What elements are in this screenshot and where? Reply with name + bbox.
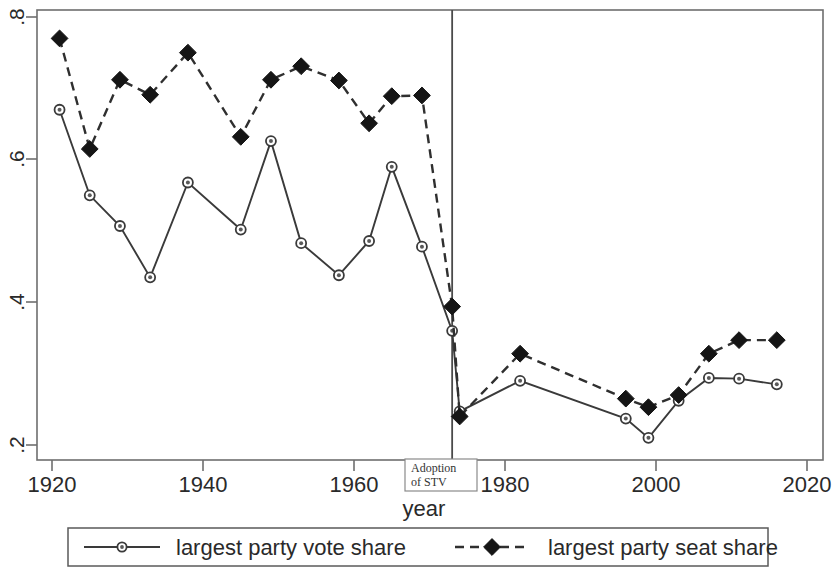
data-point-marker-dot: [186, 180, 190, 184]
x-tick-label-2000: 2000: [632, 472, 681, 497]
data-point-marker: [232, 128, 249, 145]
data-point-marker-dot: [58, 108, 62, 112]
y-tick-label-0: .8: [5, 8, 28, 26]
x-tick-label-1960: 1960: [330, 472, 379, 497]
data-point-marker: [414, 87, 431, 104]
data-point-marker: [112, 71, 129, 88]
legend-label-seat-share: largest party seat share: [548, 535, 778, 560]
y-tick-label-3: .2: [5, 436, 28, 454]
data-point-marker-dot: [707, 376, 711, 380]
data-point-marker-dot: [337, 273, 341, 277]
data-point-marker-dot: [88, 193, 92, 197]
data-point-marker-dot: [646, 436, 650, 440]
chart-legend: largest party vote share largest party s…: [68, 528, 778, 566]
data-point-marker-dot: [737, 377, 741, 381]
series-line: [60, 110, 777, 438]
data-point-marker: [617, 390, 634, 407]
data-point-marker: [700, 345, 717, 362]
data-point-marker: [383, 88, 400, 105]
x-tick-label-1980: 1980: [481, 472, 530, 497]
data-point-marker-dot: [239, 228, 243, 232]
annotation-line-2: of STV: [411, 475, 447, 489]
x-tick-label-2020: 2020: [783, 472, 832, 497]
data-point-marker: [768, 332, 785, 349]
data-point-marker: [293, 58, 310, 75]
y-tick-label-1: .6: [5, 150, 28, 168]
data-point-marker-dot: [269, 139, 273, 143]
plot-frame: [37, 10, 823, 460]
annotation-line-1: Adoption: [411, 461, 456, 475]
data-point-marker-dot: [518, 379, 522, 383]
x-tick-label-1940: 1940: [179, 472, 228, 497]
data-point-marker: [51, 30, 68, 47]
series-seat-share: [51, 30, 785, 425]
data-point-marker-dot: [148, 275, 152, 279]
data-point-marker: [731, 332, 748, 349]
data-point-marker: [640, 399, 657, 416]
y-tick-label-2: .4: [5, 293, 28, 311]
x-axis-title: year: [403, 496, 446, 521]
y-axis-ticks: [26, 17, 37, 445]
legend-marker-circle-dot: [120, 545, 124, 549]
data-point-marker-dot: [299, 241, 303, 245]
data-point-marker-dot: [775, 382, 779, 386]
plot-series-layer: [51, 10, 785, 460]
annotation-adoption-of-stv: Adoption of STV: [405, 459, 477, 491]
data-point-marker-dot: [390, 165, 394, 169]
data-point-marker-dot: [118, 224, 122, 228]
y-axis-tick-labels: .8 .6 .4 .2: [5, 8, 28, 454]
data-point-marker: [263, 71, 280, 88]
chart-figure: .8 .6 .4 .2 1920 1940 1960 1980 2000 202…: [0, 0, 832, 571]
data-point-marker-dot: [367, 239, 371, 243]
x-tick-label-1920: 1920: [28, 472, 77, 497]
data-point-marker-dot: [420, 245, 424, 249]
data-point-marker-dot: [624, 417, 628, 421]
data-point-marker: [331, 72, 348, 89]
legend-label-vote-share: largest party vote share: [176, 535, 406, 560]
data-point-marker: [81, 141, 98, 158]
